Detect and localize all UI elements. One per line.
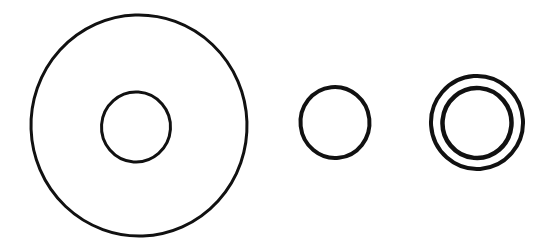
line-drawing-svg [0, 0, 555, 250]
figure-canvas [0, 0, 555, 250]
figure-background [0, 0, 555, 250]
